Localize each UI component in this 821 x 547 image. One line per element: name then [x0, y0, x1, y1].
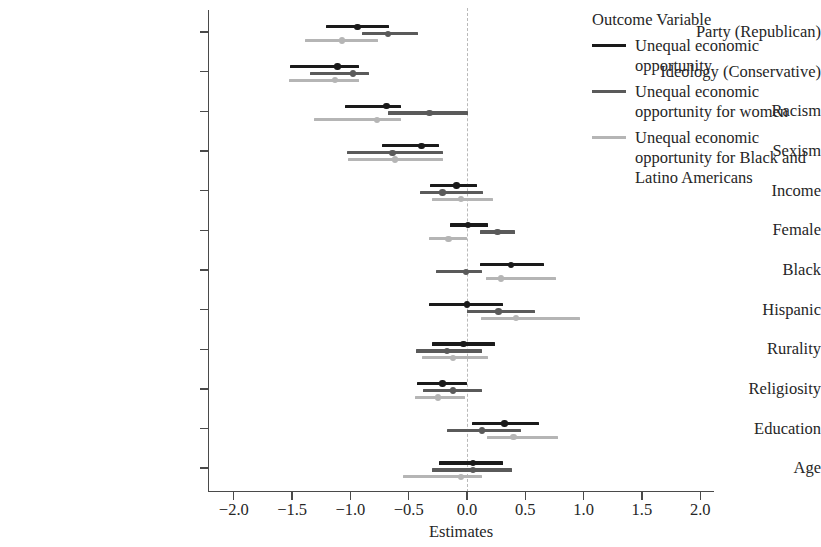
y-axis-tick [200, 269, 208, 270]
point-estimate-marker [374, 117, 380, 123]
point-estimate-marker [498, 275, 504, 281]
coefficient-plot-figure: Party (Republican)Ideology (Conservative… [0, 0, 821, 547]
confidence-interval-bar [382, 144, 439, 147]
x-axis-tick [525, 492, 526, 500]
legend-item[interactable]: Unequal economic opportunity for women [592, 82, 821, 122]
confidence-interval-bar [487, 436, 558, 439]
point-estimate-marker [470, 467, 476, 473]
point-estimate-marker [389, 150, 395, 156]
point-estimate-marker [460, 341, 466, 347]
point-estimate-marker [385, 31, 391, 37]
legend-item[interactable]: Unequal economic opportunity for Black a… [592, 128, 821, 188]
x-axis-tick [233, 492, 234, 500]
point-estimate-marker [444, 348, 450, 354]
y-axis-tick-label-age: Age [625, 460, 821, 477]
point-estimate-marker [463, 269, 469, 275]
confidence-interval-bar [310, 72, 369, 75]
y-axis-tick [200, 111, 208, 112]
legend-item[interactable]: Unequal economic opportunity [592, 36, 821, 76]
x-axis-tick [700, 492, 701, 500]
point-estimate-marker [458, 196, 464, 202]
point-estimate-marker [513, 315, 519, 321]
y-axis-tick [200, 309, 208, 310]
point-estimate-marker [334, 63, 340, 69]
point-estimate-marker [495, 308, 501, 314]
confidence-interval-bar [481, 317, 580, 320]
x-axis-tick [291, 492, 292, 500]
x-axis-tick [641, 492, 642, 500]
y-axis-tick-label-hispanic: Hispanic [625, 302, 821, 319]
confidence-interval-bar [403, 475, 482, 478]
x-axis-title: Estimates [208, 524, 714, 541]
confidence-interval-bar [290, 65, 359, 68]
point-estimate-marker [464, 301, 470, 307]
y-axis-tick-label-rurality: Rurality [625, 341, 821, 358]
point-estimate-marker [470, 460, 476, 466]
zero-reference-line [467, 8, 468, 492]
point-estimate-marker [510, 434, 516, 440]
point-estimate-marker [439, 380, 445, 386]
y-axis-tick-label-religiosity: Religiosity [625, 381, 821, 398]
legend-item-label: Unequal economic opportunity for women [635, 82, 821, 122]
point-estimate-marker [508, 262, 514, 268]
x-axis-tick-label: 2.0 [660, 502, 740, 519]
point-estimate-marker [445, 236, 451, 242]
point-estimate-marker [458, 474, 464, 480]
legend-item-label: Unequal economic opportunity for Black a… [635, 128, 821, 188]
y-axis-tick [200, 230, 208, 231]
y-axis-tick [200, 388, 208, 389]
legend-items: Unequal economic opportunityUnequal econ… [592, 36, 821, 188]
point-estimate-marker [439, 189, 445, 195]
y-axis-tick [200, 349, 208, 350]
y-axis-tick [200, 467, 208, 468]
point-estimate-marker [501, 420, 507, 426]
y-axis-tick [200, 31, 208, 32]
confidence-interval-bar [345, 105, 401, 108]
y-axis-tick [200, 71, 208, 72]
point-estimate-marker [418, 143, 424, 149]
y-axis-tick-label-black: Black [625, 262, 821, 279]
point-estimate-marker [332, 77, 338, 83]
y-axis-tick [200, 190, 208, 191]
point-estimate-marker [426, 110, 432, 116]
confidence-interval-bar [486, 277, 556, 280]
legend-line-icon [592, 90, 626, 93]
y-axis-tick-label-female: Female [625, 222, 821, 239]
legend-line-icon [592, 44, 626, 47]
point-estimate-marker [392, 156, 398, 162]
y-axis-tick [200, 150, 208, 151]
point-estimate-marker [383, 103, 389, 109]
point-estimate-marker [354, 24, 360, 30]
point-estimate-marker [453, 182, 459, 188]
confidence-interval-bar [420, 191, 483, 194]
y-axis-tick [200, 428, 208, 429]
point-estimate-marker [350, 70, 356, 76]
point-estimate-marker [465, 222, 471, 228]
x-axis-tick [408, 492, 409, 500]
point-estimate-marker [339, 37, 345, 43]
legend-item-label: Unequal economic opportunity [635, 36, 821, 76]
y-axis-tick-label-education: Education [625, 421, 821, 438]
confidence-interval-bar [436, 270, 483, 273]
x-axis-tick [583, 492, 584, 500]
point-estimate-marker [435, 394, 441, 400]
legend-title: Outcome Variable [592, 10, 821, 29]
point-estimate-marker [494, 229, 500, 235]
y-axis-spine [208, 10, 209, 492]
x-axis-spine [208, 491, 714, 492]
point-estimate-marker [479, 427, 485, 433]
x-axis-tick [350, 492, 351, 500]
legend: Outcome Variable Unequal economic opport… [592, 10, 821, 194]
point-estimate-marker [450, 387, 456, 393]
confidence-interval-bar [289, 79, 359, 82]
x-axis-tick [466, 492, 467, 500]
point-estimate-marker [450, 355, 456, 361]
confidence-interval-bar [314, 118, 400, 121]
legend-line-icon [592, 136, 626, 139]
